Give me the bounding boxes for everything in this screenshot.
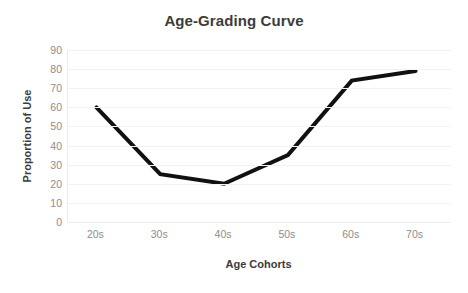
y-axis-tick-label: 70 xyxy=(36,83,62,94)
y-axis-tick-label: 50 xyxy=(36,121,62,132)
gridline xyxy=(68,184,451,185)
y-axis-tick-label: 20 xyxy=(36,179,62,190)
x-axis-tick-label: 60s xyxy=(342,228,359,241)
y-axis-title: Proportion of Use xyxy=(18,50,36,222)
gridline xyxy=(68,203,451,204)
y-axis-tick-label: 0 xyxy=(36,217,62,228)
x-axis-tick-labels: 20s30s40s50s60s70s xyxy=(67,228,450,244)
y-axis-title-text: Proportion of Use xyxy=(21,90,33,183)
chart-container: Age-Grading Curve Proportion of Use 9080… xyxy=(0,0,468,293)
gridline xyxy=(68,222,451,223)
plot-area xyxy=(67,50,451,222)
x-axis-tick-label: 40s xyxy=(215,228,232,241)
x-axis-tick-label: 70s xyxy=(406,228,423,241)
y-axis-tick-label: 60 xyxy=(36,102,62,113)
gridline xyxy=(68,88,451,89)
chart-title: Age-Grading Curve xyxy=(0,12,468,29)
y-axis-tick-label: 10 xyxy=(36,198,62,209)
x-axis-title: Age Cohorts xyxy=(67,258,450,270)
y-axis-tick-labels: 9080706050403020100 xyxy=(36,50,62,222)
gridline xyxy=(68,146,451,147)
gridline xyxy=(68,50,451,51)
gridline xyxy=(68,165,451,166)
y-axis-tick-label: 30 xyxy=(36,159,62,170)
gridline xyxy=(68,126,451,127)
gridline xyxy=(68,69,451,70)
x-axis-tick-label: 20s xyxy=(87,228,104,241)
gridline xyxy=(68,107,451,108)
y-axis-tick-label: 90 xyxy=(36,45,62,56)
y-axis-tick-label: 80 xyxy=(36,64,62,75)
x-axis-tick-label: 30s xyxy=(151,228,168,241)
x-axis-tick-label: 50s xyxy=(278,228,295,241)
line-series xyxy=(68,50,451,222)
y-axis-tick-label: 40 xyxy=(36,140,62,151)
